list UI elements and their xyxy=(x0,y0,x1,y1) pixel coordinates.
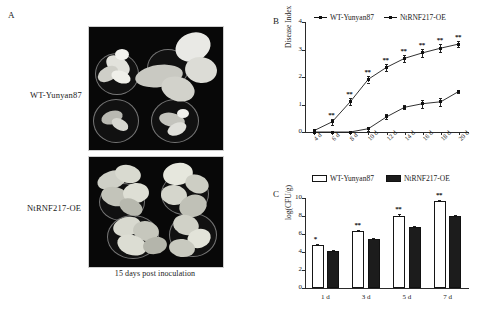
panel-b-error-cap xyxy=(367,131,370,132)
filled-square-swatch-icon xyxy=(386,175,401,182)
panel-b-y-tick-label: 1 xyxy=(293,100,302,108)
panel-b-data-point xyxy=(313,131,316,134)
panel-c-x-tick-label: 7 d xyxy=(439,293,457,301)
plant-photo-oe xyxy=(88,156,224,268)
panel-c-significance-marker: ** xyxy=(395,205,401,213)
legend-label-oe: NtRNF217-OE xyxy=(400,13,446,22)
panel-b-data-point xyxy=(403,106,406,109)
legend-label-oe: NtRNF217-OE xyxy=(404,174,450,183)
panel-c-bar-oe xyxy=(327,251,339,288)
panel-b-letter: B xyxy=(273,16,279,26)
panel-c-bar-wt xyxy=(352,231,364,288)
panel-b-error-cap xyxy=(385,119,388,120)
panel-c-bar-oe xyxy=(409,227,421,288)
panel-c-significance-marker: * xyxy=(314,235,317,243)
panel-c-significance-marker: ** xyxy=(354,221,360,229)
panel-b-y-tick-label: 3 xyxy=(293,45,302,53)
line-marker-icon xyxy=(314,17,327,18)
panel-c-y-tick-label: 10 xyxy=(291,193,302,201)
panel-c-y-tick xyxy=(302,198,305,199)
panel-c-y-tick xyxy=(302,216,305,217)
panel-c-error-cap xyxy=(454,215,457,216)
panel-c-bar-wt xyxy=(312,245,324,288)
panel-c-y-tick-label: 0 xyxy=(291,283,302,291)
panel-a-row-label-wt: WT-Yunyan87 xyxy=(30,90,82,100)
panel-c-y-tick xyxy=(302,270,305,271)
panel-b-y-tick-label: 2 xyxy=(293,72,302,80)
panel-c: C WT-Yunyan87 NtRNF217-OE log(CFU/g) 024… xyxy=(240,168,480,323)
panel-c-error-cap xyxy=(316,244,319,245)
panel-c-error-cap xyxy=(332,250,335,251)
panel-c-bar-oe xyxy=(368,239,380,289)
panel-c-x-tick-label: 5 d xyxy=(398,293,416,301)
panel-b-plot-area: 012344 d6 d8 d10 d12 d14 d16 d18 d20 d**… xyxy=(305,22,468,132)
panel-b-y-tick-label: 4 xyxy=(293,17,302,25)
plant-photo-wt xyxy=(88,26,224,151)
panel-c-y-tick xyxy=(302,252,305,253)
panel-c-error-cap xyxy=(357,230,360,231)
panel-c-error-cap xyxy=(372,238,375,239)
panel-c-error-cap xyxy=(413,226,416,227)
panel-c-y-tick-label: 2 xyxy=(291,265,302,273)
legend-label-wt: WT-Yunyan87 xyxy=(330,13,374,22)
line-marker-icon xyxy=(384,17,397,18)
panel-b-data-point xyxy=(385,115,388,118)
panel-c-plot-area: 02468101 d*3 d**5 d**7 d** xyxy=(305,198,468,288)
panel-a-row-label-oe: NtRNF217-OE xyxy=(27,203,81,213)
panel-c-y-axis xyxy=(305,198,306,289)
legend-item-wt: WT-Yunyan87 xyxy=(312,174,374,183)
panel-b-error-cap xyxy=(439,106,442,107)
panel-c-legend: WT-Yunyan87 NtRNF217-OE xyxy=(312,174,450,183)
panel-b-legend: WT-Yunyan87 NtRNF217-OE xyxy=(314,13,446,22)
legend-item-oe: NtRNF217-OE xyxy=(386,174,450,183)
panel-b-data-point xyxy=(331,131,334,134)
panel-b-data-point xyxy=(349,131,352,134)
panel-c-x-axis xyxy=(305,288,469,289)
panel-c-y-tick-label: 6 xyxy=(291,229,302,237)
panel-c-error-cap xyxy=(438,200,441,201)
panel-c-y-tick-label: 8 xyxy=(291,211,302,219)
legend-item-oe: NtRNF217-OE xyxy=(384,13,446,22)
panel-b-y-axis-title: Disease Index xyxy=(284,6,293,48)
panel-b-error-cap xyxy=(439,98,442,99)
panel-c-y-tick xyxy=(302,234,305,235)
panel-b-error-cap xyxy=(421,108,424,109)
open-square-swatch-icon xyxy=(312,175,327,182)
panel-c-bar-wt xyxy=(434,201,446,288)
panel-c-x-tick-label: 1 d xyxy=(316,293,334,301)
legend-item-wt: WT-Yunyan87 xyxy=(314,13,374,22)
panel-c-bar-oe xyxy=(449,216,461,288)
panel-b-data-point xyxy=(367,127,370,130)
panel-b-error-cap xyxy=(403,109,406,110)
panel-b-data-point xyxy=(421,102,424,105)
panel-a-caption: 15 days post inoculation xyxy=(88,269,222,278)
panel-b: B WT-Yunyan87 NtRNF217-OE Disease Index … xyxy=(240,0,480,168)
panel-c-error-cap xyxy=(398,214,401,215)
panel-c-y-tick xyxy=(302,288,305,289)
panel-b-data-point xyxy=(457,90,460,93)
panel-b-error-cap xyxy=(457,93,460,94)
panel-c-y-tick-label: 4 xyxy=(291,247,302,255)
panel-b-data-point xyxy=(439,100,442,103)
panel-c-bar-wt xyxy=(393,216,405,288)
panel-c-significance-marker: ** xyxy=(436,191,442,199)
panel-b-y-tick-label: 0 xyxy=(293,127,302,135)
panel-a: A WT-Yunyan87 NtRNF217-OE xyxy=(0,0,240,323)
panel-b-error-cap xyxy=(421,100,424,101)
panel-c-letter: C xyxy=(273,189,279,199)
panel-a-letter: A xyxy=(8,10,15,20)
legend-label-wt: WT-Yunyan87 xyxy=(330,174,374,183)
panel-c-x-tick-label: 3 d xyxy=(357,293,375,301)
